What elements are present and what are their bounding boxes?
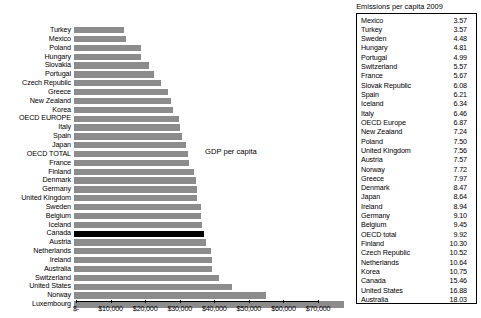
legend-emissions-value: 3.57 bbox=[427, 25, 476, 34]
legend-country-name: Australia bbox=[357, 295, 427, 304]
bar bbox=[74, 133, 182, 139]
bar-track bbox=[74, 70, 318, 79]
bar-track bbox=[74, 229, 318, 238]
gdp-per-capita-annotation: GDP per capita bbox=[205, 147, 257, 156]
legend-emissions-value: 7.56 bbox=[427, 146, 476, 155]
bar-track bbox=[74, 88, 318, 97]
legend-row: Canada15.46 bbox=[357, 276, 476, 285]
bar bbox=[74, 151, 188, 157]
bar bbox=[74, 27, 124, 33]
legend-country-name: United Kingdom bbox=[357, 146, 427, 155]
axis-tickmark bbox=[249, 300, 250, 303]
axis-tick-label: $30,000 bbox=[167, 304, 192, 313]
bar-row: Turkey bbox=[0, 26, 318, 35]
bar bbox=[74, 80, 161, 86]
bar-track bbox=[74, 176, 318, 185]
bar bbox=[74, 62, 149, 68]
legend-country-name: Poland bbox=[357, 137, 427, 146]
bar-track bbox=[74, 106, 318, 115]
bar-track bbox=[74, 194, 318, 203]
legend-row: Spain6.21 bbox=[357, 90, 476, 99]
legend-row: New Zealand7.24 bbox=[357, 127, 476, 136]
bar-row: Belgium bbox=[0, 212, 318, 221]
legend-row: United States16.88 bbox=[357, 286, 476, 295]
legend-emissions-value: 7.57 bbox=[427, 155, 476, 164]
legend-row: Belgium9.45 bbox=[357, 220, 476, 229]
axis-tick-label: $- bbox=[73, 304, 79, 313]
legend-emissions-value: 15.46 bbox=[427, 276, 476, 285]
legend-country-name: Spain bbox=[357, 90, 427, 99]
legend-emissions-value: 10.30 bbox=[427, 239, 476, 248]
bar bbox=[74, 98, 171, 104]
legend-row: OECD total9.92 bbox=[357, 230, 476, 239]
bar-track bbox=[74, 168, 318, 177]
legend-emissions-value: 3.57 bbox=[427, 16, 476, 25]
legend-row: Denmark8.47 bbox=[357, 183, 476, 192]
legend-country-name: Turkey bbox=[357, 25, 427, 34]
bar-row: OECD EUROPE bbox=[0, 114, 318, 123]
bar-row: Netherlands bbox=[0, 247, 318, 256]
bar bbox=[74, 239, 206, 245]
bar bbox=[74, 186, 197, 192]
bar bbox=[74, 36, 126, 42]
legend-country-name: Finland bbox=[357, 239, 427, 248]
legend-emissions-value: 5.57 bbox=[427, 62, 476, 71]
legend-country-name: Italy bbox=[357, 109, 427, 118]
legend-country-name: Iceland bbox=[357, 99, 427, 108]
legend-emissions-value: 10.52 bbox=[427, 248, 476, 257]
bar-highlighted bbox=[74, 231, 204, 237]
legend-emissions-value: 6.08 bbox=[427, 81, 476, 90]
legend-emissions-value: 4.99 bbox=[427, 53, 476, 62]
bar bbox=[74, 142, 186, 148]
axis-tickmark bbox=[214, 300, 215, 303]
legend-country-name: Denmark bbox=[357, 183, 427, 192]
legend-row: Turkey3.57 bbox=[357, 25, 476, 34]
bar bbox=[74, 107, 173, 113]
legend-country-name: Mexico bbox=[357, 16, 427, 25]
bar bbox=[74, 124, 180, 130]
bar bbox=[74, 54, 141, 60]
legend-row: Norway7.72 bbox=[357, 165, 476, 174]
legend-country-name: Switzerland bbox=[357, 62, 427, 71]
legend-country-name: Japan bbox=[357, 192, 427, 201]
legend-row: Netherlands10.64 bbox=[357, 258, 476, 267]
bar-track bbox=[74, 150, 318, 159]
axis-tickmark bbox=[180, 300, 181, 303]
bar bbox=[74, 89, 168, 95]
legend-row: Switzerland5.57 bbox=[357, 62, 476, 71]
legend-emissions-value: 7.24 bbox=[427, 127, 476, 136]
legend-emissions-value: 6.21 bbox=[427, 90, 476, 99]
axis-tickmark bbox=[76, 300, 77, 303]
legend-emissions-value: 5.67 bbox=[427, 71, 476, 80]
axis-tickmark bbox=[145, 300, 146, 303]
legend-country-name: Netherlands bbox=[357, 258, 427, 267]
bar-row: New Zealand bbox=[0, 97, 318, 106]
bar-track bbox=[74, 44, 318, 53]
legend-row: France5.67 bbox=[357, 71, 476, 80]
x-axis-tick-labels: $-$10,000$20,000$30,000$40,000$50,000$60… bbox=[0, 302, 318, 316]
bar-track bbox=[74, 247, 318, 256]
bar-track bbox=[74, 141, 318, 150]
bar bbox=[74, 45, 141, 51]
legend-row: Iceland6.34 bbox=[357, 99, 476, 108]
bar-track bbox=[74, 203, 318, 212]
legend-country-name: Hungary bbox=[357, 43, 427, 52]
legend-emissions-value: 9.92 bbox=[427, 230, 476, 239]
bar bbox=[74, 222, 202, 228]
bar bbox=[74, 292, 266, 298]
legend-country-name: Ireland bbox=[357, 202, 427, 211]
bar-row: Mexico bbox=[0, 35, 318, 44]
bar bbox=[74, 169, 194, 175]
legend-box-border: Mexico3.57Turkey3.57Sweden4.48Hungary4.8… bbox=[356, 13, 477, 304]
bar bbox=[74, 177, 196, 183]
legend-row: Poland7.50 bbox=[357, 137, 476, 146]
legend-emissions-value: 10.64 bbox=[427, 258, 476, 267]
legend-emissions-value: 8.64 bbox=[427, 192, 476, 201]
legend-country-name: France bbox=[357, 71, 427, 80]
legend-emissions-value: 6.34 bbox=[427, 99, 476, 108]
bar bbox=[74, 213, 201, 219]
legend-country-name: United States bbox=[357, 286, 427, 295]
legend-row: Slovak Republic6.08 bbox=[357, 81, 476, 90]
legend-emissions-value: 8.94 bbox=[427, 202, 476, 211]
legend-emissions-value: 7.72 bbox=[427, 165, 476, 174]
